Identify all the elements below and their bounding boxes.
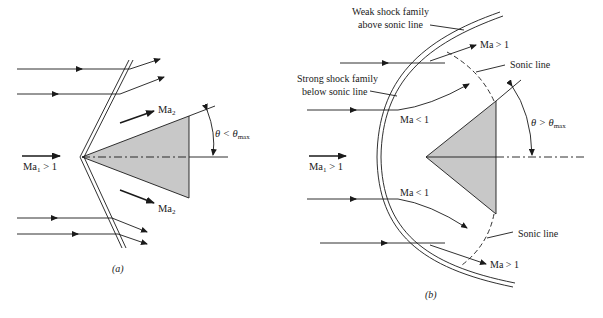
leader-sonic-top — [476, 65, 505, 72]
weak-family-label-1: Weak shock family — [352, 6, 429, 17]
sonic-line-top — [447, 52, 494, 101]
ma-gt1-label-top: Ma > 1 — [480, 39, 509, 50]
leader-sonic-bottom — [487, 232, 513, 238]
ma-lt1-label-top: Ma < 1 — [400, 114, 429, 125]
angle-label-a: θ < θmax — [215, 128, 250, 141]
upstream-mach-label-a: Ma1 > 1 — [23, 161, 57, 174]
strong-family-label-1: Strong shock family — [297, 73, 378, 84]
caption-b: (b) — [425, 289, 437, 301]
weak-family-label-2: above sonic line — [358, 19, 424, 30]
angle-ref-line-b — [496, 80, 521, 101]
ma-gt1-label-bottom: Ma > 1 — [490, 259, 519, 270]
ma2-label-bottom: Ma2 — [158, 203, 176, 216]
ma2-arrow-top — [120, 111, 154, 123]
leader-weak — [430, 25, 464, 30]
ma2-arrow-bottom — [120, 190, 154, 203]
angle-arc-a — [207, 110, 214, 155]
ma-lt1-label-bottom: Ma < 1 — [400, 187, 429, 198]
sonic-line-label-top: Sonic line — [510, 59, 551, 70]
strong-family-label-2: below sonic line — [302, 86, 368, 97]
shock-diagram: Ma1 > 1 Ma2 Ma2 θ < θmax (a) — [0, 0, 603, 318]
ma2-label-top: Ma2 — [158, 104, 176, 117]
leader-strong — [370, 91, 397, 96]
angle-ref-line-a — [189, 106, 215, 116]
wedge-b — [426, 101, 496, 214]
angle-label-b: θ > θmax — [531, 117, 566, 130]
caption-a: (a) — [112, 263, 124, 275]
angle-arc-b — [512, 86, 532, 155]
panel-a — [17, 59, 228, 248]
panel-b — [307, 12, 584, 287]
upstream-mach-label-b: Ma1 > 1 — [309, 161, 343, 174]
sonic-line-label-bottom: Sonic line — [518, 228, 559, 239]
